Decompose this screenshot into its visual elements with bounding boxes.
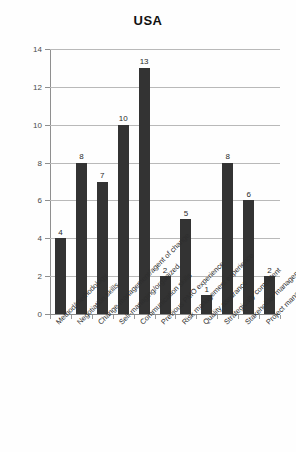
x-axis-labels: Method/methodologyNegotiation skillsChan… (0, 318, 296, 452)
bar[interactable] (55, 238, 66, 314)
bar-value-label: 10 (119, 114, 128, 123)
bar-group[interactable]: 10 (118, 49, 129, 314)
bar-group[interactable]: 6 (243, 49, 254, 314)
bar-value-label: 8 (225, 152, 229, 161)
y-tick-label-4: 4 (12, 234, 42, 243)
y-tick-label-6: 6 (12, 196, 42, 205)
bar-value-label: 5 (184, 209, 188, 218)
y-tick-label-12: 12 (12, 82, 42, 91)
bar-value-label: 8 (79, 152, 83, 161)
y-tick-label-2: 2 (12, 272, 42, 281)
bar-value-label: 4 (58, 228, 62, 237)
y-tick-label-14: 14 (12, 45, 42, 54)
y-tick-label-8: 8 (12, 158, 42, 167)
chart-figure: USA 02468101214 4871013251862 Method/met… (0, 0, 296, 452)
bar-value-label: 6 (246, 190, 250, 199)
y-tick-label-10: 10 (12, 120, 42, 129)
bar-group[interactable]: 4 (55, 49, 66, 314)
bar-group[interactable]: 8 (76, 49, 87, 314)
bar-value-label: 13 (140, 57, 149, 66)
bar-value-label: 7 (100, 171, 104, 180)
chart-title: USA (0, 13, 296, 28)
